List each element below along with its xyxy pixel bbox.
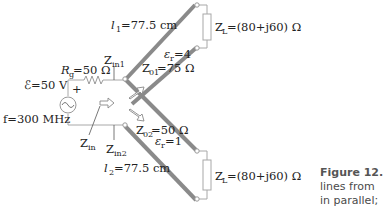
- svg-text:=(80+j60) Ω: =(80+j60) Ω: [227, 169, 301, 183]
- caption-line-2: lines from: [320, 180, 383, 194]
- svg-text:=4: =4: [174, 47, 191, 61]
- label-load-2: Z L =(80+j60) Ω: [215, 169, 301, 185]
- svg-text:in2: in2: [114, 149, 127, 158]
- label-length-1: l 1 =77.5 cm: [111, 18, 177, 34]
- figure-caption: Figure 12. lines from in parallel;: [320, 166, 383, 208]
- label-zin2: Z in2: [106, 142, 127, 158]
- direction-arrow-icons: [100, 87, 144, 121]
- label-load-1: Z L =(80+j60) Ω: [215, 20, 301, 36]
- svg-text:in: in: [88, 143, 96, 152]
- load-resistor-2: [199, 151, 211, 199]
- svg-text:=75 Ω: =75 Ω: [157, 61, 194, 75]
- svg-text:in1: in1: [112, 60, 125, 69]
- svg-text:Z: Z: [80, 136, 88, 150]
- label-emf: ℰ=50 V: [24, 78, 68, 92]
- label-length-2: l 2 =77.5 cm: [104, 161, 170, 177]
- svg-text:=77.5 cm: =77.5 cm: [121, 18, 177, 32]
- svg-text:=50 Ω: =50 Ω: [73, 63, 110, 77]
- ac-source-icon: [60, 97, 76, 113]
- label-polarity: +: [72, 82, 82, 96]
- label-rg: R g =50 Ω: [60, 63, 110, 79]
- svg-text:=(80+j60) Ω: =(80+j60) Ω: [227, 20, 301, 34]
- svg-text:=77.5 cm: =77.5 cm: [114, 161, 170, 175]
- label-zin: Z in: [80, 136, 96, 152]
- svg-text:=1: =1: [165, 134, 182, 148]
- load-resistor-1: [199, 5, 211, 48]
- caption-line-3: in parallel;: [320, 194, 383, 208]
- svg-text:l: l: [111, 18, 115, 32]
- svg-text:Z: Z: [106, 142, 114, 156]
- label-z01: Z 01 =75 Ω: [142, 61, 194, 77]
- svg-text:l: l: [104, 161, 108, 175]
- label-frequency: f=300 MHz: [3, 112, 70, 126]
- caption-figure-number: Figure 12.: [320, 166, 383, 179]
- zin-pointer: [89, 106, 100, 135]
- label-eps-2: ε r =1: [155, 134, 182, 150]
